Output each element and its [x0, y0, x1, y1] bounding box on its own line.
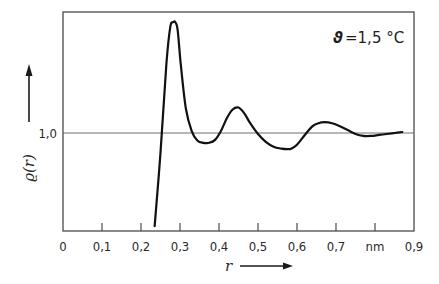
annotation-symbol: ϑ [333, 29, 343, 47]
x-tick-label: nm [366, 239, 385, 254]
x-tick-label: 0,1 [93, 239, 112, 254]
x-axis-label: r [225, 257, 233, 275]
annotation-temperature: =1,5 °C [345, 29, 404, 47]
chart: 00,10,20,30,40,50,60,7nm0,9 1,0 ϑ =1,5 °… [0, 0, 439, 284]
x-ticks [102, 223, 375, 231]
x-tick-label: 0,5 [249, 239, 268, 254]
y-tick-label: 1,0 [38, 126, 57, 141]
x-tick-label: 0,6 [288, 239, 307, 254]
x-tick-label: 0 [59, 239, 66, 254]
series-line-rho [155, 21, 403, 226]
y-ticks: 1,0 [38, 126, 57, 141]
y-axis-arrow [26, 64, 33, 122]
y-axis-label: ϱ(r) [20, 154, 38, 182]
x-tick-label: 0,2 [132, 239, 151, 254]
x-tick-label: 0,4 [210, 239, 229, 254]
x-tick-label: 0,9 [405, 239, 424, 254]
x-tick-labels: 00,10,20,30,40,50,60,7nm0,9 [59, 239, 423, 254]
x-axis-arrow [240, 263, 293, 270]
x-tick-label: 0,3 [171, 239, 190, 254]
x-tick-label: 0,7 [327, 239, 346, 254]
